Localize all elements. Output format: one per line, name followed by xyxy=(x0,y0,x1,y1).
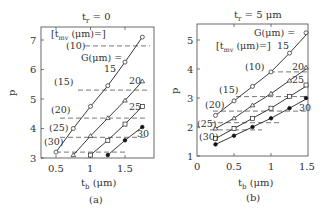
series-label-25: 25 xyxy=(292,74,304,85)
series-label-20: 20 xyxy=(129,75,141,86)
series-label-30: 30 xyxy=(299,102,311,113)
panel-a-ylabel: p xyxy=(6,90,17,96)
ref-label-30: (30) xyxy=(44,136,64,147)
panel-a-xtick: 1 xyxy=(87,163,93,174)
panel-a-title: tr = 0 xyxy=(82,11,111,25)
panel-b-ytick: 2 xyxy=(187,122,193,133)
ref-label-15: (15) xyxy=(219,84,239,95)
panel-a-ytick: 3 xyxy=(30,153,36,164)
panel-b-ylabel: p xyxy=(169,88,180,94)
series-label-25: 25 xyxy=(129,101,141,112)
panel-a-caption: (a) xyxy=(89,194,103,205)
g-label: G(μm) = xyxy=(254,27,295,38)
panel-b-y-axis: 1 2 3 4 5 p xyxy=(169,35,200,162)
ref-label-30: (30) xyxy=(199,131,219,142)
panel-b: tr = 5 μm 1 2 3 4 5 p 0 0.5 1 1.5 tb ( xyxy=(169,9,315,203)
panel-b-title: tr = 5 μm xyxy=(234,9,282,23)
panel-b-ytick: 5 xyxy=(187,35,193,46)
ref-label-10: (10) xyxy=(245,61,265,72)
series-label-30: 30 xyxy=(137,128,149,139)
panel-b-xtick: 0.5 xyxy=(226,161,242,172)
panel-a-xlabel: tb (μm) xyxy=(81,177,117,191)
g-label: G(μm) = xyxy=(81,52,122,63)
tmv-label: [tmv (μm)=] xyxy=(216,40,271,54)
panel-a: tr = 0 3 4 5 6 7 p 0.5 1 1.5 t xyxy=(6,11,154,205)
panel-b-ytick: 3 xyxy=(187,93,193,104)
panel-a-xtick: 0.5 xyxy=(48,163,64,174)
panel-b-annotations: G(μm) = [tmv (μm)=] 15 (10) 20 (15) 25 (… xyxy=(197,27,311,142)
panel-a-ytick: 5 xyxy=(30,94,36,105)
panel-b-xtick: 1 xyxy=(268,161,274,172)
panel-a-ytick: 4 xyxy=(30,123,36,134)
panel-a-xtick: 1.5 xyxy=(117,163,133,174)
ref-label-15: (15) xyxy=(54,76,74,87)
ref-label-25: (25) xyxy=(197,118,217,129)
ref-label-20: (20) xyxy=(51,104,71,115)
panel-b-caption: (b) xyxy=(246,192,260,203)
panel-b-xtick: 1.5 xyxy=(299,161,315,172)
series-label-20: 20 xyxy=(292,61,304,72)
panel-b-xlabel: tb (μm) xyxy=(238,177,274,191)
figure: tr = 0 3 4 5 6 7 p 0.5 1 1.5 t xyxy=(0,0,327,215)
series-label-15: 15 xyxy=(104,63,116,74)
series-label-15: 15 xyxy=(277,40,289,51)
panel-a-y-axis: 3 4 5 6 7 p xyxy=(6,35,44,164)
ref-label-20: (20) xyxy=(205,99,225,110)
panel-b-ytick: 1 xyxy=(187,151,193,162)
ref-label-10: (10) xyxy=(66,40,86,51)
panel-a-ytick: 7 xyxy=(30,35,36,46)
panel-b-ytick: 4 xyxy=(187,64,193,75)
panel-b-xtick: 0 xyxy=(194,161,200,172)
ref-label-25: (25) xyxy=(49,122,69,133)
panel-a-ytick: 6 xyxy=(30,64,36,75)
